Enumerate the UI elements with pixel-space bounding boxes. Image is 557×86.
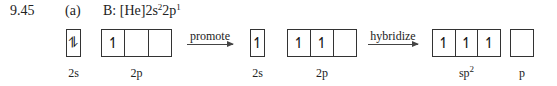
ground-2p-orbital-box: ↿ — [101, 29, 172, 57]
config-prefix: B: [He]2s — [103, 3, 158, 18]
ground-2s-orbital-box: ⥮ — [66, 29, 81, 57]
hybridize-arrow-icon — [368, 44, 418, 45]
electron-up-icon: ↿ — [433, 30, 456, 56]
promoted-2s-orbital-box: ↿ — [250, 29, 265, 57]
empty-orbital — [149, 30, 171, 56]
promoted-2p-orbital-box: ↿ ↿ — [287, 29, 357, 57]
promote-arrow-icon — [187, 44, 233, 45]
sp2-label-exponent: 2 — [470, 64, 475, 74]
ground-2p-label: 2p — [101, 66, 172, 80]
empty-orbital — [334, 30, 356, 56]
config-p-exponent: 1 — [176, 2, 181, 12]
electron-up-icon: ↿ — [478, 30, 500, 56]
p-label: p — [510, 66, 534, 80]
electron-up-icon: ↿ — [251, 30, 264, 56]
problem-number: 9.45 — [10, 3, 35, 19]
empty-orbital — [125, 30, 148, 56]
sp2-label-base: sp — [459, 66, 470, 80]
electron-configuration: B: [He]2s22p1 — [103, 3, 181, 19]
electron-up-icon: ↿ — [311, 30, 334, 56]
sp2-orbital-box: ↿ ↿ ↿ — [432, 29, 501, 57]
unhybridized-p-orbital-box — [510, 29, 534, 57]
ground-2s-label: 2s — [60, 66, 87, 80]
electron-up-icon: ↿ — [456, 30, 479, 56]
electron-up-icon: ↿ — [102, 30, 125, 56]
sp2-label: sp2 — [432, 66, 501, 80]
empty-orbital — [511, 30, 533, 56]
paired-electrons-icon: ⥮ — [67, 30, 80, 56]
part-label: (a) — [65, 3, 81, 19]
electron-up-icon: ↿ — [288, 30, 311, 56]
promoted-2p-label: 2p — [287, 66, 357, 80]
config-mid: 2p — [162, 3, 176, 18]
promoted-2s-label: 2s — [244, 66, 271, 80]
